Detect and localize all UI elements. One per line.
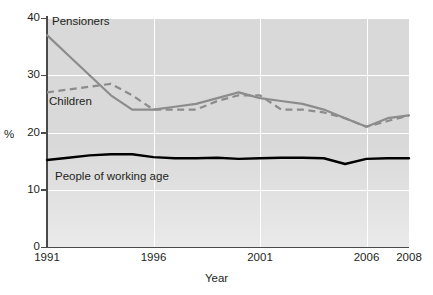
series-line-children <box>47 84 409 127</box>
chart-figure: 40 30 20 10 0 % 1991 1996 2001 2006 2008… <box>0 0 433 295</box>
series-annotation-people-of-working-age: People of working age <box>55 170 169 182</box>
series-annotation-children: Children <box>49 95 92 107</box>
series-line-people-of-working-age <box>47 154 409 164</box>
series-lines <box>0 0 433 295</box>
series-line-pensioners <box>47 35 409 127</box>
series-annotation-pensioners: Pensioners <box>52 15 110 27</box>
